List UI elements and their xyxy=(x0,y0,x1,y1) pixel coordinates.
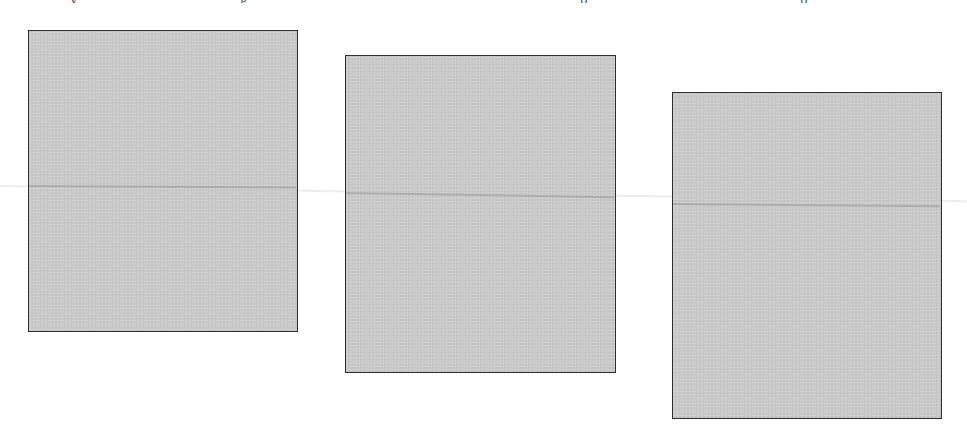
text-fragment: y xyxy=(70,0,79,3)
panel-crease xyxy=(29,185,296,188)
gray-panel-3 xyxy=(672,92,942,419)
text-fragment: p xyxy=(580,0,589,3)
panel-crease xyxy=(673,203,940,207)
text-fragment: p xyxy=(800,0,809,3)
panel-crease xyxy=(346,192,614,198)
text-fragment: g xyxy=(240,0,249,3)
clipped-caption-text: y g p p xyxy=(0,0,967,3)
gray-panel-2 xyxy=(345,55,616,373)
gray-panel-1 xyxy=(28,30,298,332)
